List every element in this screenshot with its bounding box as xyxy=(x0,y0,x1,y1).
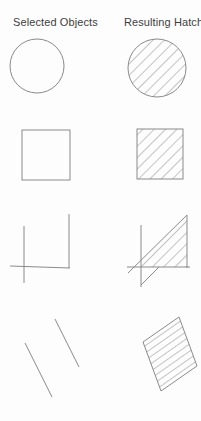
hatched-square xyxy=(137,129,183,179)
selected-open-boundary xyxy=(10,214,70,283)
selected-square xyxy=(22,130,70,180)
selected-parallel-lines xyxy=(25,319,79,397)
selected-circle xyxy=(10,39,64,93)
hatch-example-figure: Selected Objects Resulting Hatch xyxy=(0,0,201,421)
figure-canvas xyxy=(0,0,201,421)
hatched-circle xyxy=(128,39,186,97)
shapes-layer xyxy=(10,39,197,397)
hatched-parallelogram xyxy=(143,317,197,391)
